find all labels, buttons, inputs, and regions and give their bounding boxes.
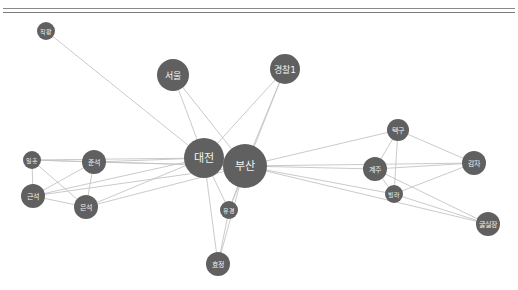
node-daejeon[interactable]: 대전 <box>184 138 224 178</box>
node-hyojeong[interactable]: 효정 <box>206 252 230 276</box>
node-yugyeong[interactable]: 유경 <box>220 201 238 219</box>
node-layer: 직왕서울경찰1대전부산일홍준석근석은석유경효정택구계주감자빌라굴실장 <box>21 22 500 276</box>
node-junseok[interactable]: 준석 <box>82 150 106 174</box>
node-label: 직왕 <box>40 28 52 36</box>
node-jigwang[interactable]: 직왕 <box>37 22 55 40</box>
edge-layer <box>32 31 488 264</box>
node-label: 부산 <box>235 160 255 173</box>
graph-canvas: 직왕서울경찰1대전부산일홍준석근석은석유경효정택구계주감자빌라굴실장 <box>0 0 518 290</box>
node-police1[interactable]: 경찰1 <box>270 54 300 84</box>
node-eunseok[interactable]: 은석 <box>74 195 98 219</box>
node-label: 빌라 <box>388 191 400 199</box>
node-label: 준석 <box>88 158 100 167</box>
edge-taekgu-gamja <box>398 130 474 163</box>
node-ilhong[interactable]: 일홍 <box>23 151 41 169</box>
node-label: 은석 <box>80 203 92 212</box>
node-label: 유경 <box>223 207 235 215</box>
node-seoul[interactable]: 서울 <box>157 59 189 91</box>
node-label: 서울 <box>165 71 181 81</box>
edge-villa-gamja <box>394 163 474 194</box>
node-gyeju[interactable]: 계주 <box>363 157 387 181</box>
node-taekgu[interactable]: 택구 <box>387 119 409 141</box>
node-label: 대전 <box>194 152 214 165</box>
edge-villa-gulsiljang <box>394 194 488 224</box>
node-label: 굴실장 <box>479 220 498 229</box>
node-label: 효정 <box>212 260 224 269</box>
edge-police1-yugyeong <box>229 69 285 210</box>
node-label: 택구 <box>392 126 405 135</box>
node-label: 일홍 <box>26 157 38 164</box>
node-label: 경찰1 <box>274 64 296 75</box>
node-busan[interactable]: 부산 <box>223 144 267 188</box>
node-label: 근석 <box>27 192 39 201</box>
node-gulsiljang[interactable]: 굴실장 <box>476 212 500 236</box>
node-label: 계주 <box>369 165 382 174</box>
node-gamja[interactable]: 감자 <box>462 151 486 175</box>
node-label: 감자 <box>468 159 481 168</box>
edge-busan-gamja <box>245 163 474 166</box>
node-geunseok[interactable]: 근석 <box>21 184 45 208</box>
node-villa[interactable]: 빌라 <box>385 185 403 203</box>
network-diagram: 직왕서울경찰1대전부산일홍준석근석은석유경효정택구계주감자빌라굴실장 <box>0 0 518 290</box>
edge-eunseok-busan <box>86 166 245 207</box>
edge-geunseok-daejeon <box>33 158 204 196</box>
